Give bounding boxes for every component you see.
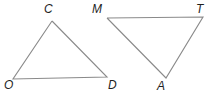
triangle-mta-outline [107, 17, 203, 78]
figure-canvas [0, 0, 214, 98]
triangle-cod-outline [13, 21, 107, 79]
vertex-label-t: T [196, 3, 203, 15]
geometry-figure: C D O M T A [0, 0, 214, 98]
vertex-label-o: O [4, 79, 13, 91]
vertex-label-a: A [157, 80, 165, 92]
vertex-label-c: C [44, 3, 53, 15]
vertex-label-m: M [92, 3, 102, 15]
vertex-label-d: D [108, 79, 117, 91]
